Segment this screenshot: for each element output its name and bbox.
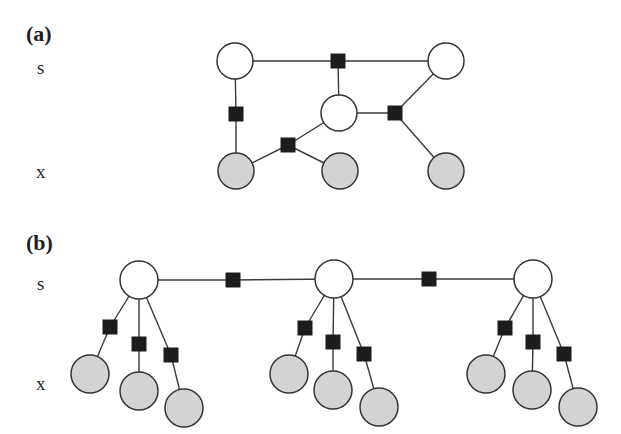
panel-label-a: (a) (26, 23, 52, 45)
factor-square-b-f33 (557, 347, 571, 361)
factor-square-b-f11 (103, 320, 117, 334)
hidden-state-node-b-s1 (120, 261, 158, 299)
factor-square-b-f22 (326, 335, 340, 349)
observed-node-b-x11 (71, 355, 109, 393)
observed-node-b-x13 (165, 389, 203, 427)
observed-node-a-x3 (428, 153, 464, 189)
observed-node-b-x23 (360, 388, 398, 426)
observed-node-b-x32 (513, 371, 551, 409)
factor-square-b-f32 (526, 335, 540, 349)
hidden-state-node-b-s3 (514, 260, 552, 298)
row-label-x-a: x (36, 162, 46, 181)
observed-node-b-x21 (270, 355, 308, 393)
hidden-state-node-a-s3 (321, 95, 357, 131)
observed-node-b-x31 (467, 355, 505, 393)
hidden-state-node-a-s2 (428, 43, 464, 79)
factor-square-b-f23 (357, 347, 371, 361)
observed-node-b-x22 (314, 371, 352, 409)
factor-graph-svg (0, 0, 621, 434)
factor-square-b-f13 (164, 348, 178, 362)
factor-square-b-f21 (298, 321, 312, 335)
row-label-s-a: s (37, 58, 44, 77)
factor-square-b-h1 (226, 273, 240, 287)
observed-node-b-x12 (120, 372, 158, 410)
row-label-s-b: s (37, 274, 44, 293)
hidden-state-node-b-s2 (315, 260, 353, 298)
factor-square-a-f2 (229, 107, 243, 121)
row-label-x-b: x (36, 374, 46, 393)
factor-graph-figure: (a) s x (b) s x (0, 0, 621, 434)
observed-node-a-x1 (218, 153, 254, 189)
hidden-state-node-a-s1 (217, 43, 253, 79)
factor-square-a-f1 (331, 54, 345, 68)
panel-label-b: (b) (26, 232, 53, 254)
observed-node-b-x33 (559, 388, 597, 426)
factor-square-b-h2 (422, 272, 436, 286)
factor-square-a-f3 (281, 138, 295, 152)
observed-node-a-x2 (322, 153, 358, 189)
factor-square-b-f31 (498, 321, 512, 335)
nodes-layer (71, 43, 597, 427)
factor-square-b-f12 (132, 337, 146, 351)
factor-square-a-f4 (388, 106, 402, 120)
